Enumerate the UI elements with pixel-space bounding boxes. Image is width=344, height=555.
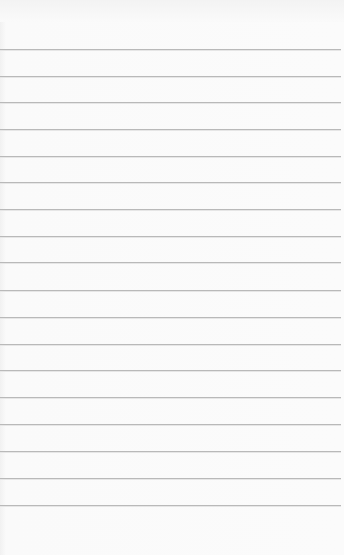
ruled-line (0, 49, 341, 50)
ruled-line (0, 182, 341, 183)
ruled-line (0, 317, 341, 318)
ruled-line (0, 262, 341, 263)
ruled-line (0, 209, 341, 210)
ruled-line (0, 129, 341, 130)
ruled-line (0, 397, 341, 398)
lined-notepad-page[interactable] (0, 0, 344, 555)
ruled-line (0, 424, 341, 425)
ruled-line (0, 478, 341, 479)
ruled-line (0, 156, 341, 157)
ruled-line (0, 344, 341, 345)
ruled-line (0, 505, 341, 506)
ruled-line (0, 236, 341, 237)
ruled-line (0, 76, 341, 77)
ruled-line (0, 451, 341, 452)
ruled-line (0, 290, 341, 291)
ruled-line (0, 370, 341, 371)
ruled-line (0, 102, 341, 103)
faded-header-band (0, 0, 344, 22)
